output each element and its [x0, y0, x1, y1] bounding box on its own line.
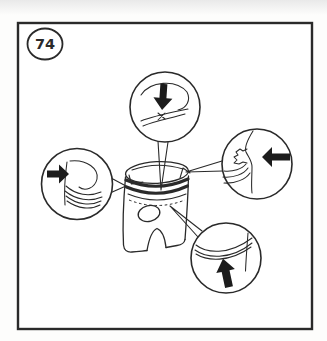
figure-page: 74: [0, 0, 327, 341]
callout-bottom: [191, 223, 261, 293]
callout-top: [130, 72, 200, 142]
callout-left-circle: [42, 149, 113, 220]
figure-number-badge: 74: [28, 29, 63, 60]
figure-74-illustration: 74: [0, 0, 327, 341]
callout-left: [42, 149, 113, 220]
callout-right: [222, 129, 292, 199]
figure-number: 74: [35, 36, 55, 52]
callout-top-circle: [130, 72, 200, 142]
callout-right-circle: [222, 129, 292, 199]
